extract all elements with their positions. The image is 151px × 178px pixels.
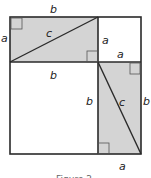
label-left-a: a bbox=[1, 32, 8, 45]
label-bottom-a: a bbox=[119, 160, 126, 173]
label-top-c: c bbox=[46, 27, 52, 40]
label-top-b: b bbox=[50, 3, 57, 16]
pythagorean-diagram: b a c a a b b c b a Figure 2 bbox=[0, 0, 151, 178]
label-middle-b: b bbox=[50, 69, 57, 82]
label-lower-left-b: b bbox=[86, 95, 93, 108]
label-upper-right-a-vertical: a bbox=[102, 34, 109, 47]
label-upper-right-a-horizontal: a bbox=[117, 48, 124, 61]
label-right-b: b bbox=[143, 95, 150, 108]
label-lower-right-c: c bbox=[119, 96, 125, 109]
figure-caption: Figure 2 bbox=[56, 174, 92, 178]
